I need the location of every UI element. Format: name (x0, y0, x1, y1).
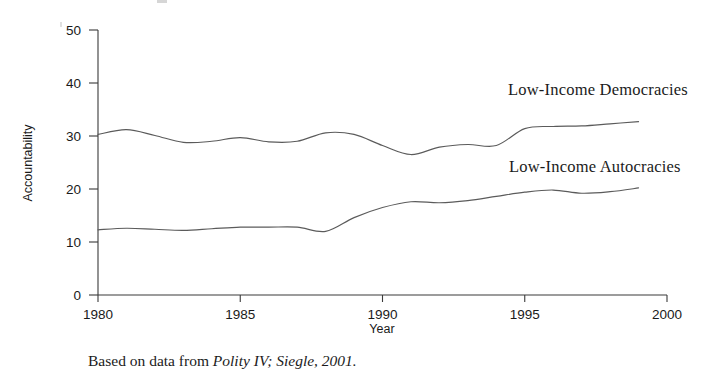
series-path-low-income-democracies (98, 122, 639, 155)
figure-caption: Based on data from Polity IV; Siegle, 20… (88, 352, 357, 370)
y-tick-label: 20 (66, 182, 81, 197)
y-tick-label: 40 (66, 76, 81, 91)
figure-container: 01020304050 19801985199019952000 Year Ac… (0, 0, 706, 378)
x-tick-label: 1980 (83, 307, 113, 322)
x-tick-label: 1985 (225, 307, 255, 322)
x-axis-title: Year (369, 322, 394, 336)
caption-prefix: Based on data from (88, 352, 213, 369)
y-tick-label: 30 (66, 129, 81, 144)
x-axis-ticks: 19801985199019952000 (83, 295, 682, 322)
x-tick-label: 2000 (652, 307, 682, 322)
caption-source: Polity IV; Siegle, 2001. (213, 352, 357, 369)
x-tick-label: 1990 (367, 307, 397, 322)
y-tick-label: 10 (66, 235, 81, 250)
y-tick-label: 0 (73, 288, 81, 303)
series-path-low-income-autocracies (98, 188, 639, 232)
y-tick-label: 50 (66, 23, 81, 38)
series-label-low-income-autocracies: Low-Income Autocracies (509, 157, 681, 177)
y-axis-title: Accountability (21, 124, 35, 202)
x-tick-label: 1995 (510, 307, 540, 322)
series-label-low-income-democracies: Low-Income Democracies (508, 80, 688, 100)
line-chart: 01020304050 19801985199019952000 Year Ac… (0, 0, 706, 378)
y-axis-ticks: 01020304050 (66, 23, 98, 303)
